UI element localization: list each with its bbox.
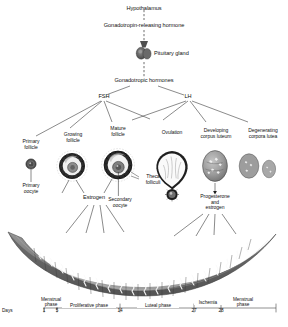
label-theca-folliculi: Theca folliculi	[137, 174, 169, 185]
label-developing-corpus-luteum: Developing corpus luteum	[190, 128, 242, 139]
phase-label-luteal: Luteal phase	[137, 303, 179, 308]
label-ovulation: Ovulation	[150, 130, 194, 136]
phase-label-ischemia: Ischemia	[194, 300, 222, 305]
label-mature-follicle: Mature follicle	[96, 126, 140, 137]
primary-follicle-glyph	[26, 159, 36, 182]
phase-label-proliferative: Proliferative phase	[62, 303, 116, 308]
label-gonadotropic-hormones: Gonadotropic hormones	[89, 77, 199, 83]
endometrium-illustration	[8, 232, 276, 300]
tick-label-28: 28	[215, 308, 227, 313]
label-primary-oocyte: Primary oocyte	[10, 183, 52, 194]
label-gnrh: Gonadotropin-releasing hormone	[74, 22, 214, 28]
developing-corpus-luteum-glyph	[203, 151, 228, 195]
degenerating-corpora-lutea-glyph	[239, 154, 275, 178]
menstrual-cycle-diagram: Hypothalamus Gonadotropin-releasing horm…	[0, 0, 288, 327]
tick-label-14: 14	[114, 308, 126, 313]
timeline-days-label: Days	[2, 308, 26, 313]
pituitary-gland-glyph	[136, 41, 151, 59]
growing-follicle-glyph	[57, 151, 87, 193]
phase-label-menstrual-end: Menstrual phase	[224, 297, 262, 307]
label-fsh: FSH	[90, 93, 118, 99]
diagram-vector-layer	[0, 0, 288, 327]
label-pituitary-gland: Pituitary gland	[154, 50, 214, 56]
label-hypothalamus: Hypothalamus	[102, 5, 186, 11]
mature-follicle-glyph	[102, 149, 139, 196]
tick-label-5: 5	[51, 308, 63, 313]
label-lh: LH	[176, 93, 200, 99]
tick-label-1: 1	[38, 308, 50, 313]
label-estrogen: Estrogen	[67, 194, 121, 200]
label-growing-follicle: Growing follicle	[50, 132, 96, 143]
label-primary-follicle: Primary follicle	[10, 139, 52, 150]
label-degenerating-corpora-lutea: Degenerating corpora lutea	[238, 128, 288, 139]
label-progesterone-and-estrogen: Progesterone and estrogen	[190, 194, 240, 211]
tick-label-27: 27	[188, 308, 200, 313]
